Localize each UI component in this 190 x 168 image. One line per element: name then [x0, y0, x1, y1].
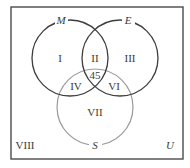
region-center-value: 45 [90, 69, 102, 81]
region-ii-label: II [91, 52, 99, 64]
venn-diagram: M E S U I II III 45 IV VI VII VIII [0, 0, 190, 168]
universe-label: U [166, 139, 175, 151]
region-vii-label: VII [87, 106, 103, 118]
set-m-label: M [55, 14, 66, 26]
region-i-label: I [58, 52, 62, 64]
set-s-label: S [92, 139, 98, 151]
region-vi-label: VI [108, 80, 120, 92]
set-e-label: E [124, 14, 132, 26]
universe-frame [11, 7, 183, 159]
region-viii-label: VIII [16, 139, 35, 151]
region-iii-label: III [125, 52, 136, 64]
region-iv-label: IV [70, 80, 82, 92]
